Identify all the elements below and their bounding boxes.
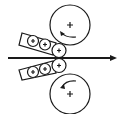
diagram-canvas	[0, 0, 124, 114]
top-backup-roll	[50, 5, 90, 45]
bottom-backup-roll	[50, 74, 90, 114]
bottom-cluster-rolls	[28, 59, 67, 78]
arrowhead-icon	[110, 55, 117, 61]
rolling-mill-diagram	[0, 0, 124, 114]
